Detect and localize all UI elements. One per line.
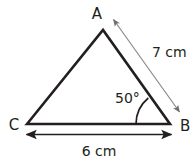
angle-b-label: 50° <box>115 90 140 106</box>
triangle-diagram-svg: A B C 7 cm 50° 6 cm <box>0 0 196 163</box>
vertex-label-a: A <box>92 5 103 23</box>
figure-background <box>0 0 196 163</box>
triangle-figure: A B C 7 cm 50° 6 cm <box>0 0 196 163</box>
vertex-label-b: B <box>180 117 190 135</box>
vertex-label-c: C <box>9 116 19 134</box>
side-ab-length-label: 7 cm <box>152 44 187 60</box>
base-cb-length-label: 6 cm <box>82 143 117 159</box>
